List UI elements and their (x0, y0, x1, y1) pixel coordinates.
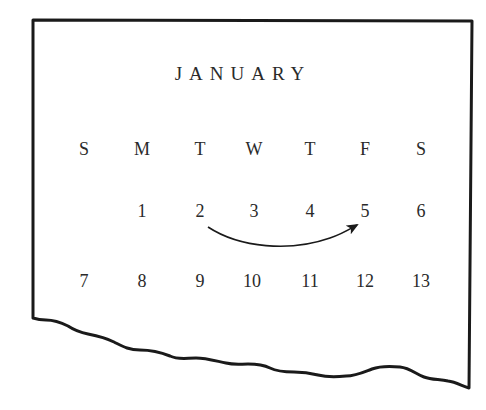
weekday-header-saturday: S (401, 139, 441, 159)
day-cell: 5 (345, 201, 385, 221)
day-cell: 13 (401, 271, 441, 291)
weekday-header-sunday: S (64, 139, 104, 159)
day-cell: 10 (232, 271, 272, 291)
weekday-header-friday: F (345, 139, 385, 159)
day-cell: 1 (122, 201, 162, 221)
weekday-header-monday: M (122, 139, 162, 159)
day-cell: 9 (180, 271, 220, 291)
day-cell: 11 (290, 271, 330, 291)
day-cell: 4 (290, 201, 330, 221)
day-cell: 7 (64, 271, 104, 291)
weekday-header-wednesday: W (234, 139, 274, 159)
day-cell: 2 (180, 201, 220, 221)
weekday-header-tuesday: T (180, 139, 220, 159)
day-cell: 12 (345, 271, 385, 291)
day-cell: 3 (234, 201, 274, 221)
day-cell: 6 (401, 201, 441, 221)
weekday-header-thursday: T (290, 139, 330, 159)
day-cell: 8 (122, 271, 162, 291)
month-title: JANUARY (0, 63, 486, 85)
